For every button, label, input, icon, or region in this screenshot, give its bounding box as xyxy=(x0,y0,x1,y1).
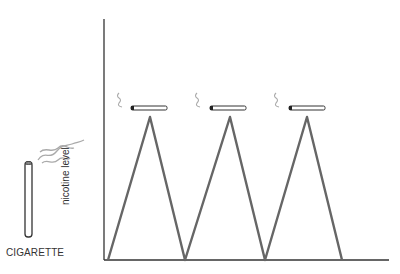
cigarette-label: CIGARETTE xyxy=(6,247,64,258)
nicotine-level-curve xyxy=(108,117,342,260)
cigarette-icon-peak-2 xyxy=(196,93,247,110)
cigarette-icon-peak-1 xyxy=(118,93,168,110)
y-axis-label: nicotine level xyxy=(60,147,71,205)
cigarette-icon xyxy=(25,162,32,238)
nicotine-diagram xyxy=(0,0,400,274)
cigarette-icon-peak-3 xyxy=(275,93,326,110)
